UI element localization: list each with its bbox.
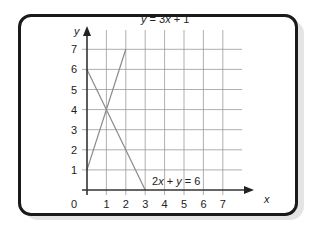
y-tick-label: 1: [71, 164, 77, 176]
x-tick-label: 7: [220, 198, 226, 210]
y-tick-label: 7: [71, 43, 77, 55]
y-tick-label: 6: [71, 63, 77, 75]
line-label-2x-y-6: 2x + y = 6: [152, 175, 200, 187]
x-tick-label: 2: [123, 198, 129, 210]
x-tick-label: 1: [103, 198, 109, 210]
y-axis-label: y: [73, 25, 81, 37]
y-tick-label: 2: [71, 144, 77, 156]
origin-label: 0: [71, 198, 77, 210]
line-label-y-3x-1: y = 3x + 1: [140, 13, 189, 25]
graph: y x 0 1234567 1234567 y = 3x + 1 2x + y …: [0, 0, 315, 227]
x-axis-label: x: [263, 193, 270, 205]
y-tick-labels: 1234567: [71, 43, 77, 176]
x-tick-label: 6: [200, 198, 206, 210]
x-tick-label: 3: [142, 198, 148, 210]
y-tick-label: 5: [71, 84, 77, 96]
plotted-lines: [87, 49, 145, 190]
x-tick-label: 5: [181, 198, 187, 210]
x-axis-arrow-icon: [244, 186, 254, 194]
y-tick-label: 4: [71, 104, 77, 116]
x-tick-label: 4: [162, 198, 168, 210]
x-tick-labels: 1234567: [103, 198, 226, 210]
y-tick-label: 3: [71, 124, 77, 136]
y-axis-arrow-icon: [83, 26, 91, 36]
